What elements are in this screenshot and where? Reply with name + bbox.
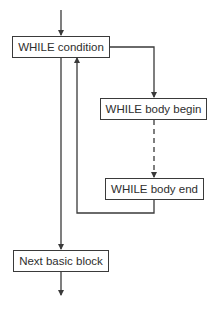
node-while-body-begin: WHILE body begin — [100, 98, 207, 120]
node-while-condition: WHILE condition — [12, 36, 110, 58]
node-label: WHILE body end — [111, 183, 198, 195]
node-while-body-end: WHILE body end — [105, 178, 204, 200]
node-label: Next basic block — [19, 255, 103, 267]
condition-to-body-begin-arrow — [110, 47, 154, 97]
node-next-basic-block: Next basic block — [13, 250, 109, 272]
node-label: WHILE body begin — [106, 103, 202, 115]
node-label: WHILE condition — [18, 41, 104, 53]
